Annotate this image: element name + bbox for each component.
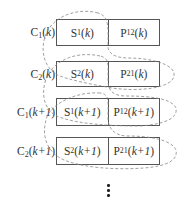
row-label-c1-k1: C1(k+1) xyxy=(0,105,55,119)
block-row-4: S2(k+1) P21(k+1) xyxy=(56,137,160,165)
dot-1 xyxy=(107,184,110,187)
block-row-2: S2(k) P21(k) xyxy=(56,61,160,87)
block-row-3: S1(k+1) P12(k+1) xyxy=(56,98,160,126)
cell-p21-k: P21(k) xyxy=(109,62,160,86)
cell-s1-k1: S1(k+1) xyxy=(57,99,109,125)
row-label-c2-k: C2(k) xyxy=(0,67,55,81)
dot-3 xyxy=(107,194,110,197)
continuation-ellipsis xyxy=(107,184,111,199)
cell-p21-k1: P21(k+1) xyxy=(109,138,160,164)
cell-s1-k: S1(k) xyxy=(57,20,109,45)
block-row-1: S1(k) P12(k) xyxy=(56,19,160,46)
row-label-c1-k: C1(k) xyxy=(0,25,55,39)
cell-p12-k1: P12(k+1) xyxy=(109,99,160,125)
cell-s2-k1: S2(k+1) xyxy=(57,138,109,164)
cell-s2-k: S2(k) xyxy=(57,62,109,86)
dot-2 xyxy=(107,189,110,192)
cell-p12-k: P12(k) xyxy=(109,20,160,45)
row-label-c2-k1: C2(k+1) xyxy=(0,144,55,158)
